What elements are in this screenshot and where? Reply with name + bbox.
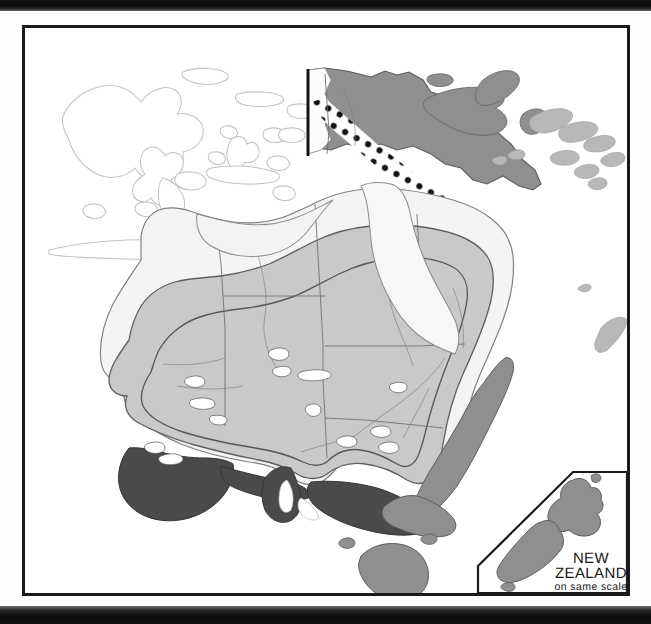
vanuatu-island-2	[574, 164, 599, 178]
king-island	[339, 538, 355, 549]
new-caledonia	[595, 317, 627, 352]
inset-label-line1: NEW	[545, 551, 637, 566]
norfolk-island	[578, 284, 591, 292]
scan-edge-bar-bottom	[0, 606, 651, 624]
solomon-island-4	[550, 150, 579, 165]
map-page: NEW ZEALAND on same scale	[0, 0, 651, 624]
inset-label-line2: ZEALAND	[533, 566, 649, 581]
new-ireland	[475, 71, 519, 106]
scan-edge-bar-top	[0, 0, 651, 11]
manus-island	[427, 74, 453, 87]
vanuatu-island-3	[588, 178, 607, 190]
flinders-island	[421, 534, 437, 545]
map-frame	[22, 25, 630, 596]
nz-north-island-cape	[591, 474, 601, 483]
australia	[101, 183, 514, 593]
distribution-map-svg	[25, 28, 627, 593]
inset-label-line3: on same scale	[534, 582, 648, 593]
tasmania	[359, 544, 429, 594]
vanuatu-island-1	[601, 152, 625, 166]
